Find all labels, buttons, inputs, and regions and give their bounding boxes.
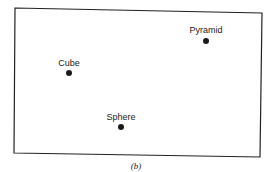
diagram-canvas: Pyramid Cube Sphere (b) <box>0 0 273 172</box>
point-pyramid: Pyramid <box>189 25 222 44</box>
frame-box <box>14 8 262 157</box>
point-marker-icon <box>66 70 72 76</box>
point-cube: Cube <box>58 58 80 76</box>
point-sphere: Sphere <box>106 112 135 130</box>
point-label: Sphere <box>106 112 135 122</box>
figure-caption: (b) <box>131 161 142 171</box>
point-marker-icon <box>118 124 124 130</box>
point-label: Cube <box>58 58 80 68</box>
point-label: Pyramid <box>189 25 222 35</box>
point-marker-icon <box>203 38 209 44</box>
